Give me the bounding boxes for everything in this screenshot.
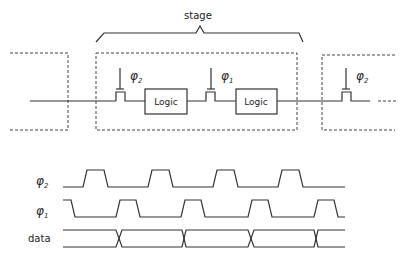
latch-phi2-next [277,92,370,101]
phi1-waveform [63,200,345,217]
previous-stage-box [10,53,68,130]
signal-label-data: data [28,233,51,244]
svg-text:Logic: Logic [244,97,268,107]
data-waveform-top [63,230,345,247]
stage-brace [96,26,303,42]
latch-phi2 [116,92,145,101]
latch-phi1 [187,92,236,101]
pipeline-diagram: stage φ2 Logic φ1 Logic φ2 φ2 φ1 data [0,0,401,259]
latch-clock-label: φ2 [130,69,143,85]
signal-label-phi2: φ2 [36,174,49,190]
data-waveform-bottom [63,230,345,247]
svg-text:Logic: Logic [154,97,178,107]
next-stage-box [322,55,395,130]
stage-label: stage [184,10,212,21]
latch-clock-label: φ2 [356,69,369,85]
signal-label-phi1: φ1 [36,204,48,220]
latch-clock-label: φ1 [221,69,233,85]
phi2-waveform [63,170,345,187]
